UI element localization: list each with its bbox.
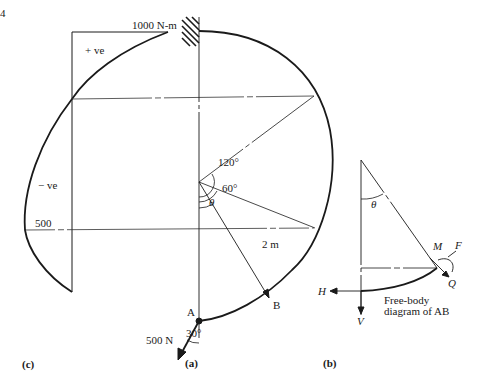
positive-region-label: + ve xyxy=(85,44,104,56)
force-v-label: V xyxy=(357,315,365,327)
caption-c: (c) xyxy=(22,358,35,371)
force-h-label: H xyxy=(317,285,327,297)
angle-60-label: 60° xyxy=(222,182,237,194)
panel-a-curved-bar xyxy=(178,17,333,360)
moment-m-label: M xyxy=(432,240,443,252)
fbd-theta-label: θ xyxy=(371,198,377,210)
angle-30-label: 30° xyxy=(186,327,201,339)
force-f-label: F xyxy=(454,239,462,251)
angle-theta-label: θ xyxy=(209,196,215,208)
max-moment-label: 1000 N-m xyxy=(132,19,177,31)
angle-120-label: 120° xyxy=(218,156,239,168)
point-a-label: A xyxy=(187,306,195,318)
point-b-label: B xyxy=(273,299,280,311)
guide-lines xyxy=(25,96,314,230)
caption-b: (b) xyxy=(323,357,337,370)
negative-region-label: − ve xyxy=(38,179,57,191)
fixed-support-wall xyxy=(182,17,199,47)
panel-c-moment-diagram xyxy=(25,32,168,292)
figure-number: 4 xyxy=(0,7,6,19)
figure-canvas: 4 xyxy=(0,0,484,388)
fbd-title-line2: diagram of AB xyxy=(384,305,449,317)
load-label: 500 N xyxy=(146,334,173,346)
mid-moment-label: 500 xyxy=(35,217,52,229)
force-q-label: Q xyxy=(448,277,456,289)
radius-label: 2 m xyxy=(262,238,279,250)
caption-a: (a) xyxy=(185,357,198,370)
panel-b-free-body xyxy=(330,160,456,315)
